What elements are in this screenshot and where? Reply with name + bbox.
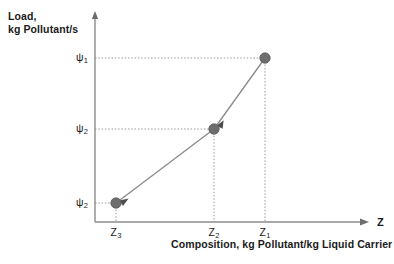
- y-tick-label-psi1: ψ1: [60, 51, 88, 64]
- y-tick-base-psi1: ψ: [76, 51, 84, 63]
- x-tick-base-z2: Z: [209, 226, 215, 238]
- axis-lines: [95, 16, 362, 222]
- x-tick-base-z3: Z: [111, 226, 117, 238]
- x-tick-sub-z1: 1: [266, 231, 270, 240]
- y-tick-sub-psi2-mid: 2: [84, 127, 88, 136]
- y-tick-base-psi2-low: ψ: [76, 196, 84, 208]
- y-tick-label-psi2-mid: ψ2: [60, 122, 88, 135]
- y-axis-title-line2: kg Pollutant/s: [8, 23, 78, 36]
- data-markers: [111, 53, 270, 208]
- x-tick-label-z2: Z2: [200, 226, 228, 239]
- data-point-z3[interactable]: [111, 198, 121, 208]
- y-tick-label-psi2-low: ψ2: [60, 196, 88, 209]
- x-axis-title: Composition, kg Pollutant/kg Liquid Carr…: [171, 238, 392, 251]
- data-point-z1[interactable]: [260, 53, 270, 63]
- y-tick-base-psi2-mid: ψ: [76, 122, 84, 134]
- x-tick-base-z1: Z: [260, 226, 266, 238]
- data-point-z2[interactable]: [209, 124, 219, 134]
- segment-z3-z2: [116, 129, 214, 203]
- arrow-right-icon: [360, 219, 369, 226]
- y-tick-sub-psi1: 1: [84, 56, 88, 65]
- arrow-up-icon: [92, 11, 98, 19]
- x-axis-end-label: Z: [377, 216, 384, 230]
- x-tick-label-z1: Z1: [251, 226, 279, 239]
- y-axis-title: Load, kg Pollutant/s: [8, 10, 78, 36]
- y-axis-title-line1: Load,: [8, 10, 78, 23]
- y-tick-sub-psi2-low: 2: [84, 201, 88, 210]
- data-line: [116, 58, 265, 203]
- x-tick-sub-z2: 2: [215, 231, 219, 240]
- guide-lines: [95, 58, 265, 222]
- x-tick-label-z3: Z3: [102, 226, 130, 239]
- segment-z2-z1: [214, 58, 265, 129]
- chart-figure: Load, kg Pollutant/s Composition, kg Pol…: [0, 0, 394, 264]
- x-tick-sub-z3: 3: [117, 231, 121, 240]
